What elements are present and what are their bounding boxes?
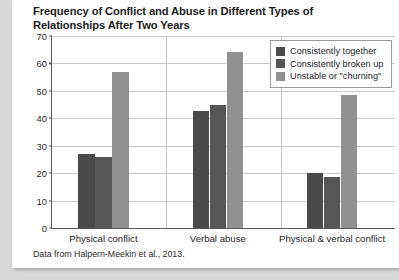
y-axis-tick-mark [49, 227, 53, 228]
chart-card: Frequency of Conflict and Abuse in Diffe… [12, 0, 399, 268]
bar [112, 72, 129, 228]
bar [78, 154, 95, 228]
y-axis-tick-mark [49, 90, 53, 91]
y-axis-tick-mark [49, 173, 53, 174]
bar [324, 177, 341, 228]
bar [227, 52, 244, 228]
x-axis-tick-label: Physical & verbal conflict [279, 233, 385, 244]
y-axis-tick-label: 20 [37, 168, 47, 179]
x-axis-tick-label: Verbal abuse [190, 233, 246, 244]
y-axis-tick-label: 50 [37, 85, 47, 96]
x-axis-tick-label: Physical conflict [69, 233, 137, 244]
y-axis-tick-label: 70 [37, 31, 47, 42]
legend-item-label: Consistently together [290, 46, 376, 56]
legend-swatch-icon [276, 72, 285, 81]
legend-swatch-icon [276, 59, 285, 68]
y-axis-tick-mark [49, 63, 53, 64]
y-axis-tick-label: 30 [37, 140, 47, 151]
y-axis-tick-label: 0 [42, 223, 47, 234]
bar [95, 157, 112, 228]
legend-item-label: Consistently broken up [290, 59, 383, 69]
bar [307, 173, 324, 228]
y-axis-tick-label: 10 [37, 195, 47, 206]
legend-item: Unstable or "churning" [276, 70, 386, 83]
bar [210, 105, 227, 228]
y-axis-tick-label: 60 [37, 58, 47, 69]
y-axis-tick-mark [49, 35, 53, 36]
bar [341, 95, 358, 228]
legend-item: Consistently broken up [276, 58, 386, 71]
source-note: Data from Halpern-Meekin et al., 2013. [33, 249, 185, 259]
y-axis-tick-mark [49, 200, 53, 201]
legend-item: Consistently together [276, 45, 386, 58]
y-axis-tick-label: 40 [37, 113, 47, 124]
y-axis-tick-mark [49, 118, 53, 119]
y-axis-tick-mark [49, 145, 53, 146]
chart-legend: Consistently togetherConsistently broken… [270, 40, 392, 88]
bar [193, 111, 210, 228]
legend-item-label: Unstable or "churning" [290, 71, 381, 81]
legend-swatch-icon [276, 47, 285, 56]
chart-title: Frequency of Conflict and Abuse in Diffe… [33, 5, 383, 32]
